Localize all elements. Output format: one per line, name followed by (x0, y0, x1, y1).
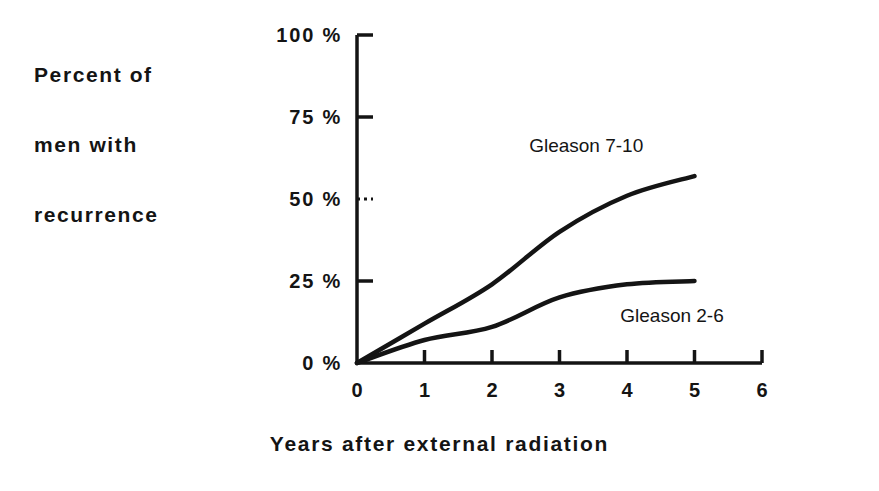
plot-area (0, 0, 879, 491)
data-series (357, 176, 695, 363)
series-line-gleason-7-10 (357, 176, 695, 363)
series-annotation-gleason-2-6: Gleason 2-6 (620, 305, 724, 327)
x-axis-title: Years after external radiation (0, 432, 879, 456)
chart-figure: Percent of men with recurrence 0 %25 %50… (0, 0, 879, 491)
series-annotation-gleason-7-10: Gleason 7-10 (529, 135, 643, 157)
